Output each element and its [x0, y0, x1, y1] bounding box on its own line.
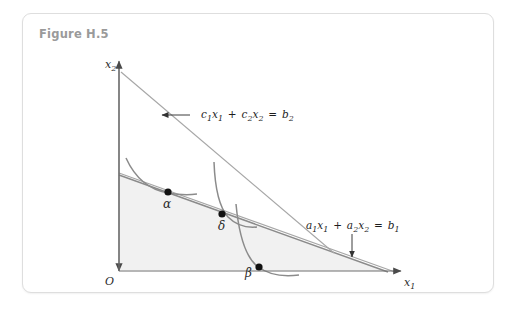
constraint-eqn-equals: = — [369, 219, 387, 231]
constraint-eqn-plus: + — [328, 219, 346, 231]
point-delta-label: δ — [218, 219, 225, 233]
constraint-line-label: a1x1 + a2x2 = b1 — [306, 219, 400, 234]
objective-eqn-equals: = — [263, 108, 281, 120]
point-alpha-marker — [164, 188, 171, 195]
objective-eqn-b2-sub: 2 — [289, 114, 294, 123]
objective-eqn-b2: b — [282, 108, 289, 120]
point-delta-marker — [218, 210, 225, 217]
objective-eqn-plus: + — [223, 108, 241, 120]
x-axis-label: x1 — [404, 276, 415, 291]
x-axis-label-subscript: 1 — [410, 282, 415, 291]
y-axis-label: x2 — [105, 58, 116, 73]
figure-card: Figure H.5 — [22, 13, 494, 293]
origin-label: O — [105, 275, 114, 288]
constraint-eqn-b1-sub: 1 — [394, 225, 399, 234]
point-alpha-label: α — [163, 197, 171, 211]
figure-plot — [23, 14, 495, 294]
objective-line-label: c1x1 + c2x2 = b2 — [201, 108, 294, 123]
point-beta-marker — [255, 263, 262, 270]
y-axis-label-subscript: 2 — [111, 64, 116, 73]
point-beta-label: β — [245, 266, 252, 280]
